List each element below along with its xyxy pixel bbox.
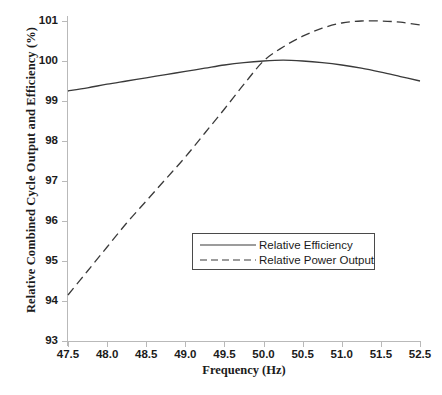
- legend-swatch-dashed-line: [198, 254, 258, 266]
- y-tick-label: 99: [18, 94, 58, 106]
- legend-swatch-solid-line: [198, 239, 258, 251]
- x-tick-mark: [264, 341, 265, 347]
- x-tick-mark: [185, 341, 186, 347]
- y-tick-mark: [62, 21, 68, 22]
- y-tick-label: 97: [18, 174, 58, 186]
- x-tick-mark: [420, 341, 421, 347]
- x-tick-mark: [224, 341, 225, 347]
- chart-legend: Relative Efficiency Relative Power Outpu…: [192, 233, 375, 270]
- y-tick-label: 100: [18, 54, 58, 66]
- x-tick-mark: [381, 341, 382, 347]
- legend-entry-relative-efficiency: Relative Efficiency: [193, 237, 374, 252]
- x-tick-label: 52.5: [397, 348, 442, 360]
- y-tick-label: 93: [18, 334, 58, 346]
- y-tick-label: 96: [18, 214, 58, 226]
- y-tick-label: 98: [18, 134, 58, 146]
- legend-label: Relative Efficiency: [259, 239, 353, 251]
- series-line-relative-efficiency: [68, 60, 420, 91]
- y-axis-title: Relative Combined Cycle Output and Effic…: [20, 0, 42, 340]
- legend-entry-relative-power-output: Relative Power Output: [193, 252, 374, 267]
- y-tick-mark: [62, 261, 68, 262]
- y-tick-label: 101: [18, 14, 58, 26]
- y-tick-mark: [62, 61, 68, 62]
- y-tick-mark: [62, 181, 68, 182]
- y-tick-mark: [62, 141, 68, 142]
- legend-label: Relative Power Output: [259, 254, 374, 266]
- y-tick-mark: [62, 221, 68, 222]
- x-tick-mark: [303, 341, 304, 347]
- y-tick-mark: [62, 301, 68, 302]
- x-tick-mark: [146, 341, 147, 347]
- y-tick-label: 95: [18, 254, 58, 266]
- y-tick-mark: [62, 101, 68, 102]
- x-tick-mark: [68, 341, 69, 347]
- x-tick-mark: [107, 341, 108, 347]
- x-tick-mark: [342, 341, 343, 347]
- y-tick-label: 94: [18, 294, 58, 306]
- x-axis-title: Frequency (Hz): [68, 363, 420, 378]
- x-axis-line: [67, 341, 421, 342]
- chart-container: Relative Combined Cycle Output and Effic…: [0, 0, 442, 395]
